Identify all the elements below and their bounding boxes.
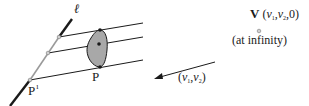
ell-node-middle [46, 51, 50, 55]
point-p-label: P [92, 70, 99, 83]
direction-vector-label: (v1,v2) [178, 71, 206, 83]
line-ell-lower [10, 80, 30, 106]
ell-node-pprime [28, 78, 32, 82]
region-point-top [98, 28, 102, 32]
point-p-prime-label: Pı [28, 84, 38, 97]
projection-line-bottom [30, 60, 143, 80]
line-ell-label: ℓ [74, 2, 79, 15]
region-point-middle [97, 42, 101, 46]
at-infinity-label: (at infinity) [232, 34, 287, 46]
direction-arrow-head-icon [154, 73, 163, 79]
ell-node-top [57, 35, 61, 39]
vanishing-point-label: V (v1,v2,0) [250, 7, 299, 20]
line-ell-upper [59, 19, 72, 37]
shaded-region [87, 30, 107, 67]
line-ell-middle [30, 37, 59, 80]
